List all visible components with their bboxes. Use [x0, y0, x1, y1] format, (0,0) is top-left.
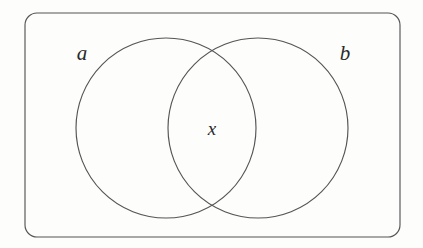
- element-x-label: x: [207, 118, 217, 139]
- venn-diagram-svg: a b x: [0, 0, 423, 248]
- set-b-label: b: [340, 41, 351, 65]
- set-a-circle: [76, 38, 256, 218]
- venn-diagram-canvas: a b x: [0, 0, 423, 248]
- set-a-label: a: [77, 41, 88, 65]
- set-b-circle: [168, 38, 348, 218]
